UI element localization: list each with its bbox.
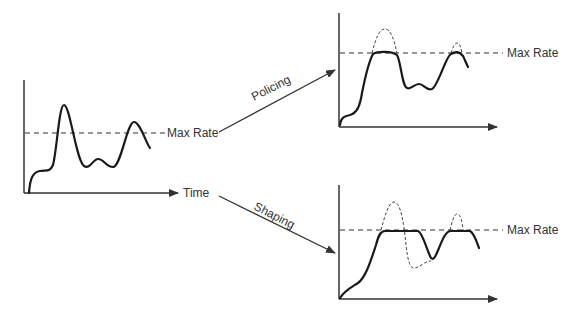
policing-shaping-diagram: Max Rate Time Policing Shaping Max Rate … xyxy=(0,0,579,319)
policing-label: Policing xyxy=(249,72,293,104)
policing-connector: Policing xyxy=(219,70,335,132)
original-traffic-dashed xyxy=(381,202,431,268)
original-burst-dashed-2 xyxy=(450,214,463,230)
traffic-curve xyxy=(29,105,150,193)
policed-traffic-curve xyxy=(340,52,468,125)
max-rate-label: Max Rate xyxy=(167,126,219,140)
max-rate-label: Max Rate xyxy=(507,46,559,60)
original-traffic-chart: Max Rate Time xyxy=(24,80,219,200)
policing-chart: Max Rate xyxy=(339,13,559,127)
max-rate-label: Max Rate xyxy=(507,223,559,237)
original-burst-dashed xyxy=(372,29,397,53)
shaping-connector: Shaping xyxy=(219,196,335,253)
time-label: Time xyxy=(183,186,210,200)
shaping-chart: Max Rate xyxy=(339,185,559,299)
